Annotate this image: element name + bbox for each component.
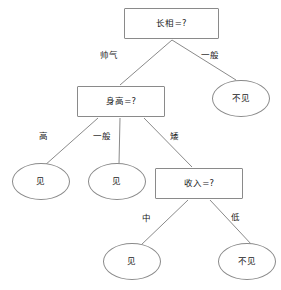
node-label: 长相=? [156, 19, 186, 28]
edge-height-to-avg [119, 118, 120, 164]
node-label: 身高=? [106, 97, 136, 106]
edge-label-height-to-leaf_l2: 一般 [93, 132, 111, 141]
edge-label-root-to-height: 帅气 [100, 51, 118, 60]
node-label: 不见 [238, 257, 256, 266]
edge-height-to-income [144, 118, 192, 167]
edge-income-to-nomeet [210, 200, 252, 245]
decision-node-root: 长相=? [124, 8, 219, 39]
decision-node-height: 身高=? [77, 86, 165, 117]
edge-root-to-height [120, 40, 172, 85]
leaf-node-leaf_l2: 见 [88, 163, 146, 200]
edge-label-height-to-leaf_l1: 高 [39, 132, 48, 141]
leaf-node-leaf_r1: 不见 [212, 80, 270, 117]
edge-height-to-tall [44, 118, 98, 166]
node-label: 不见 [232, 94, 250, 103]
decision-tree-diagram: 长相=?身高=?收入=?不见见见见不见 帅气一般高一般矮中低 [0, 0, 281, 290]
leaf-node-leaf_b2: 不见 [218, 243, 276, 280]
edge-root-to-no-meet [172, 40, 236, 80]
edge-label-income-to-leaf_b1: 中 [142, 214, 151, 223]
decision-node-income: 收入=? [155, 168, 243, 199]
node-label: 见 [127, 257, 136, 266]
leaf-node-leaf_l1: 见 [12, 163, 70, 200]
node-label: 收入=? [184, 179, 214, 188]
leaf-node-leaf_b1: 见 [103, 243, 161, 280]
edge-label-income-to-leaf_b2: 低 [231, 213, 240, 222]
node-label: 见 [112, 177, 121, 186]
edge-income-to-meet [140, 200, 188, 246]
edge-label-height-to-income: 矮 [170, 132, 179, 141]
node-label: 见 [36, 177, 45, 186]
edge-label-root-to-leaf_r1: 一般 [201, 51, 219, 60]
